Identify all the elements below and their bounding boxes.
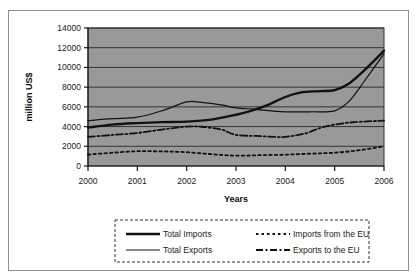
x-tick-label: 2001 — [128, 176, 147, 186]
y-tick-label: 10000 — [57, 62, 81, 72]
x-tick-label: 2005 — [325, 176, 344, 186]
y-tick-label: 8000 — [62, 82, 81, 92]
y-tick-label: 6000 — [62, 102, 81, 112]
figure-container: 02000400060008000100001200014000 2000200… — [0, 0, 419, 280]
y-tick-label: 12000 — [57, 43, 81, 53]
legend-label: Exports to the EU — [293, 245, 360, 255]
y-axis-title: million US$ — [24, 72, 34, 121]
y-tick-label: 4000 — [62, 122, 81, 132]
x-tick-label: 2004 — [276, 176, 295, 186]
legend-label: Imports from the EU — [293, 229, 369, 239]
x-tick-label: 2002 — [177, 176, 196, 186]
x-tick-label: 2000 — [79, 176, 98, 186]
y-tick-label: 2000 — [62, 141, 81, 151]
plot-background — [88, 28, 384, 166]
legend-label: Total Exports — [163, 245, 212, 255]
chart-legend: Total ImportsImports from the EUTotal Ex… — [115, 220, 369, 262]
x-axis-ticks: 2000200120022003200420052006 — [79, 166, 394, 186]
legend-box — [115, 220, 369, 262]
y-axis-ticks: 02000400060008000100001200014000 — [57, 23, 88, 171]
chart-area: 02000400060008000100001200014000 2000200… — [8, 10, 409, 271]
legend-label: Total Imports — [163, 229, 212, 239]
x-tick-label: 2003 — [227, 176, 246, 186]
x-tick-label: 2006 — [375, 176, 394, 186]
line-chart: 02000400060008000100001200014000 2000200… — [8, 10, 409, 271]
y-tick-label: 0 — [76, 161, 81, 171]
figure-caption-fragment — [10, 0, 190, 8]
y-tick-label: 14000 — [57, 23, 81, 33]
x-axis-title: Years — [224, 194, 248, 204]
